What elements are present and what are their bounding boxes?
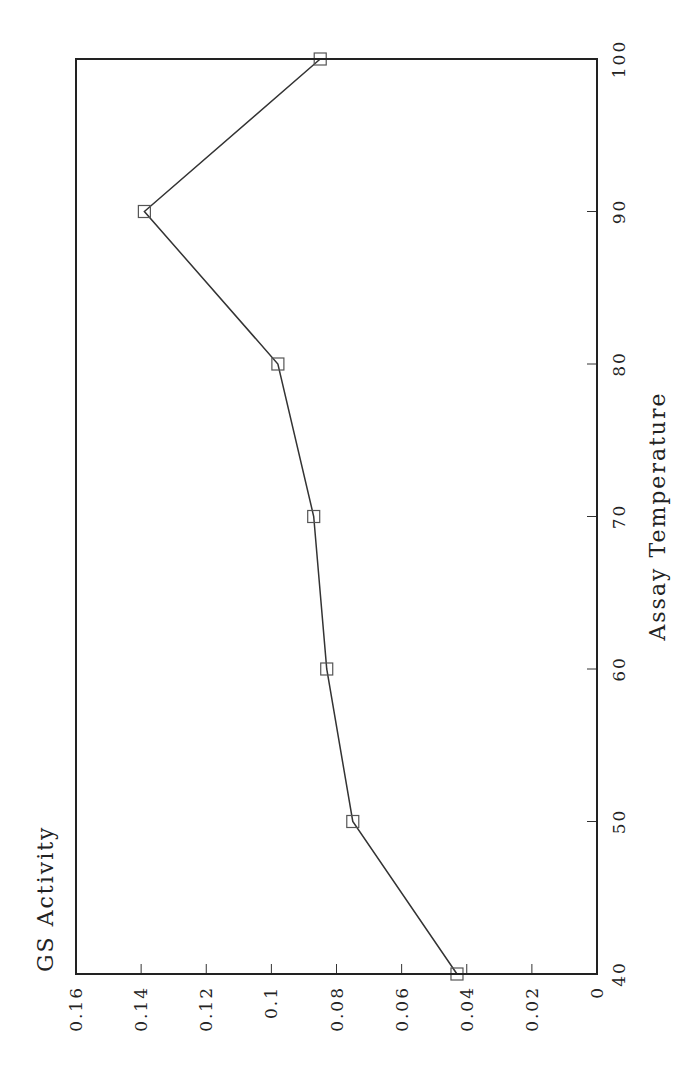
chart: 00.020.040.060.080.10.120.140.1640506070… (0, 0, 686, 1082)
x-tick-label: 50 (609, 809, 629, 835)
data-point-marker (138, 206, 150, 218)
y-tick-label: 0.04 (457, 986, 477, 1032)
x-tick-label: 100 (609, 40, 629, 78)
y-tick-label: 0.08 (327, 986, 347, 1032)
y-tick-label: 0.02 (522, 986, 542, 1032)
data-point-marker (321, 663, 333, 675)
y-axis-label: GS Activity (33, 826, 58, 972)
axis-ticks (76, 59, 597, 974)
y-tick-label: 0 (587, 986, 607, 999)
plot-frame (76, 59, 597, 974)
x-tick-label: 70 (609, 504, 629, 530)
x-tick-label: 90 (609, 199, 629, 225)
data-markers (138, 53, 463, 980)
data-point-marker (308, 511, 320, 523)
y-tick-label: 0.16 (66, 986, 86, 1032)
x-tick-label: 80 (609, 351, 629, 377)
y-tick-label: 0.14 (131, 986, 151, 1032)
tick-labels: 00.020.040.060.080.10.120.140.1640506070… (66, 40, 629, 1032)
y-tick-label: 0.06 (392, 986, 412, 1032)
y-tick-label: 0.1 (261, 986, 281, 1019)
data-line (144, 59, 457, 974)
data-point-marker (347, 816, 359, 828)
data-point-marker (272, 358, 284, 370)
x-axis-label: Assay Temperature (645, 391, 670, 641)
x-tick-label: 60 (609, 656, 629, 682)
y-tick-label: 0.12 (196, 986, 216, 1032)
x-tick-label: 40 (609, 961, 629, 987)
